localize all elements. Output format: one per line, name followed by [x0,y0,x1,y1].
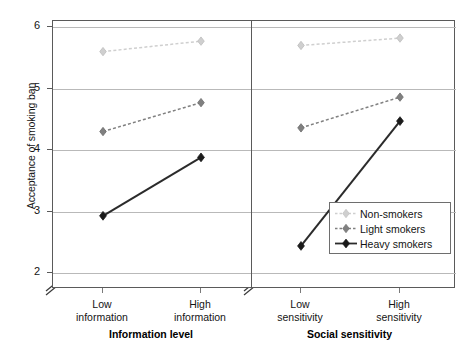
data-point-non-smokers-0 [100,47,107,55]
y-tick-label-6: 6 [14,19,40,31]
y-tick-label-4: 4 [14,142,40,154]
y-tick-label-2: 2 [14,265,40,277]
data-point-light-smokers-0 [298,124,305,132]
data-point-light-smokers-1 [198,98,205,106]
x-tick-mark [399,288,400,293]
series-line-light-smokers [103,103,201,132]
x-tick-mark [200,288,201,293]
x-category-label: Lowsensitivity [245,298,355,324]
legend-key-light-smokers [334,222,358,235]
panel-axis-title: Social sensitivity [250,328,450,340]
legend-label: Heavy smokers [358,238,432,250]
data-point-non-smokers-0 [298,41,305,49]
data-point-light-smokers-1 [397,93,404,101]
legend-key-heavy-smokers [334,237,358,250]
series-line-non-smokers [301,38,400,45]
panel-axis-title: Information level [51,328,251,340]
y-tick-label-5: 5 [14,81,40,93]
legend: Non-smokers Light smokers Heavy smokers [329,202,451,254]
series-line-light-smokers [301,97,400,128]
series-line-non-smokers [103,41,201,51]
data-point-non-smokers-1 [397,34,404,42]
x-category-label: Lowinformation [47,298,157,324]
x-category-label: Highinformation [145,298,255,324]
legend-key-non-smokers [334,207,358,220]
data-point-non-smokers-1 [198,37,205,45]
legend-item[interactable]: Light smokers [334,221,445,236]
data-point-heavy-smokers-0 [100,211,107,220]
x-category-label: Highsensitivity [344,298,454,324]
legend-item[interactable]: Non-smokers [334,206,445,221]
legend-label: Non-smokers [358,208,422,220]
legend-item[interactable]: Heavy smokers [334,236,445,251]
chart-figure: Acceptance of smoking ban 23456 Lowinfor… [0,0,476,351]
data-point-heavy-smokers-1 [198,153,205,162]
data-point-light-smokers-0 [100,127,107,135]
x-tick-mark [300,288,301,293]
legend-label: Light smokers [358,223,425,235]
series-line-heavy-smokers [103,157,201,215]
y-tick-label-3: 3 [14,204,40,216]
x-tick-mark [102,288,103,293]
